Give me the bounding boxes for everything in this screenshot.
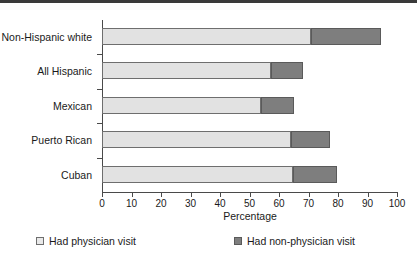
category-label: Mexican <box>0 100 96 112</box>
x-tick-mark <box>132 193 133 197</box>
y-tick-mark <box>97 158 102 159</box>
category-label: Cuban <box>0 169 96 181</box>
bar-segment-non-physician-visit <box>293 166 337 183</box>
category-label: Non-Hispanic white <box>0 31 96 43</box>
x-tick-mark <box>309 193 310 197</box>
x-tick-label: 60 <box>264 198 294 209</box>
x-tick-label: 90 <box>353 198 383 209</box>
bar-segment-non-physician-visit <box>291 131 330 148</box>
legend-item-non-physician-visit: Had non-physician visit <box>234 235 355 247</box>
bar-segment-physician-visit <box>102 62 271 79</box>
x-tick-mark <box>397 193 398 197</box>
y-tick-mark <box>97 123 102 124</box>
category-label: Puerto Rican <box>0 134 96 146</box>
chart-legend: Had physician visit Had non-physician vi… <box>0 231 417 251</box>
bar-segment-non-physician-visit <box>261 97 294 114</box>
light-swatch-icon <box>36 237 44 245</box>
x-tick-mark <box>102 193 103 197</box>
x-tick-mark <box>279 193 280 197</box>
bar-segment-physician-visit <box>102 131 291 148</box>
x-tick-label: 50 <box>235 198 265 209</box>
x-tick-label: 100 <box>382 198 412 209</box>
bar-segment-physician-visit <box>102 166 293 183</box>
bar-segment-physician-visit <box>102 28 311 45</box>
x-tick-label: 20 <box>146 198 176 209</box>
x-axis-title: Percentage <box>102 210 398 222</box>
x-tick-label: 80 <box>323 198 353 209</box>
x-tick-mark <box>220 193 221 197</box>
bar-segment-non-physician-visit <box>271 62 303 79</box>
x-tick-mark <box>161 193 162 197</box>
dark-swatch-icon <box>234 237 242 245</box>
x-tick-mark <box>250 193 251 197</box>
bar-segment-non-physician-visit <box>311 28 381 45</box>
x-tick-label: 70 <box>294 198 324 209</box>
top-divider-rule <box>0 0 417 3</box>
x-tick-mark <box>338 193 339 197</box>
legend-label: Had physician visit <box>49 235 136 247</box>
x-tick-mark <box>368 193 369 197</box>
chart-figure: 0102030405060708090100 Non-Hispanic whit… <box>0 0 417 257</box>
legend-item-physician-visit: Had physician visit <box>36 235 136 247</box>
y-tick-mark <box>97 54 102 55</box>
bar-segment-physician-visit <box>102 97 261 114</box>
x-tick-label: 30 <box>176 198 206 209</box>
x-tick-mark <box>191 193 192 197</box>
y-tick-mark <box>97 89 102 90</box>
category-label: All Hispanic <box>0 65 96 77</box>
x-tick-label: 0 <box>87 198 117 209</box>
legend-label: Had non-physician visit <box>247 235 355 247</box>
x-tick-label: 40 <box>205 198 235 209</box>
x-tick-label: 10 <box>117 198 147 209</box>
